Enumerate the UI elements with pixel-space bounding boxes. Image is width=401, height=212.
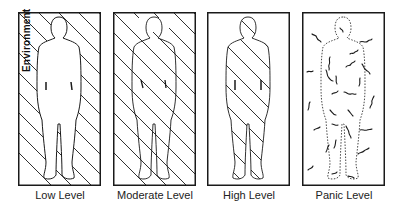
- high-level-figure: [207, 12, 290, 186]
- moderate-level-figure: [113, 12, 196, 186]
- panel-panic-level: [302, 12, 385, 186]
- panic-level-figure: [302, 12, 385, 186]
- label-high-level: High Level: [194, 189, 304, 201]
- panel-moderate-level: [113, 12, 196, 186]
- environment-axis-label: Environment: [21, 9, 32, 72]
- panel-high-level: [207, 12, 290, 186]
- label-low-level: Low Level: [5, 189, 115, 201]
- label-panic-level: Panic Level: [289, 189, 399, 201]
